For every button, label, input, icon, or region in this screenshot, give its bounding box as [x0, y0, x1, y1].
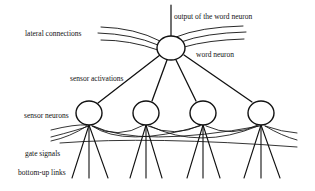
- word-neuron: [157, 36, 185, 60]
- sensor-neurons: [76, 101, 274, 125]
- sensor-neuron-4: [248, 101, 274, 125]
- bottom-up-links: [72, 125, 280, 178]
- sensor-neuron-1: [76, 101, 102, 125]
- diagram: output of the word neuron lateral connec…: [0, 0, 315, 191]
- label-gate-signals: gate signals: [25, 150, 60, 158]
- label-lateral-connections: lateral connections: [25, 30, 81, 38]
- sensor-neuron-2: [133, 101, 159, 125]
- label-sensor-activations: sensor activations: [70, 75, 124, 83]
- sensor-neuron-3: [190, 101, 216, 125]
- label-sensor-neurons: sensor neurons: [24, 112, 69, 120]
- lateral-connections-left: [98, 27, 160, 50]
- lateral-connections-right: [176, 26, 246, 47]
- label-word-neuron: word neuron: [196, 51, 234, 59]
- label-output: output of the word neuron: [174, 13, 252, 21]
- label-bottom-up-links: bottom-up links: [18, 169, 66, 177]
